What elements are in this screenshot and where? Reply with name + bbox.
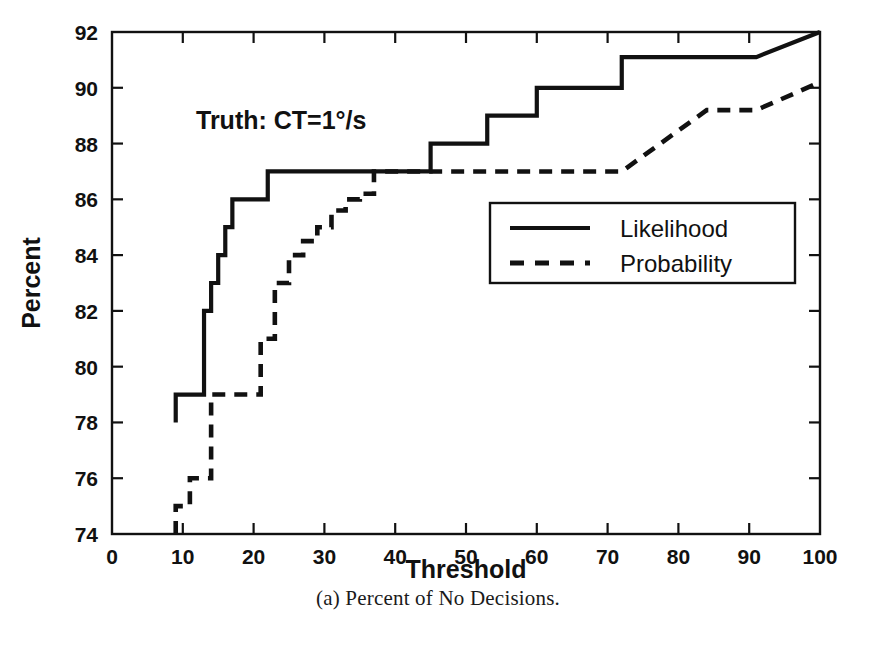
x-tick-label: 60 bbox=[525, 545, 548, 568]
chart-canvas: 0102030405060708090100 74767880828486889… bbox=[0, 0, 876, 647]
y-tick-label: 92 bbox=[75, 21, 98, 44]
x-tick-label: 90 bbox=[738, 545, 761, 568]
x-tick-label: 70 bbox=[596, 545, 619, 568]
x-tick-label: 40 bbox=[384, 545, 407, 568]
legend-label-probability: Probability bbox=[620, 250, 732, 277]
x-axis-title: Threshold bbox=[406, 555, 527, 583]
annotation-truth: Truth: CT=1°/s bbox=[196, 106, 366, 134]
y-tick-label: 76 bbox=[75, 467, 98, 490]
y-tick-label: 86 bbox=[75, 188, 98, 211]
y-tick-label: 74 bbox=[75, 523, 99, 546]
y-tick-label: 82 bbox=[75, 300, 98, 323]
legend[interactable]: Likelihood Probability bbox=[490, 203, 795, 283]
x-tick-label: 100 bbox=[802, 545, 837, 568]
y-tick-label: 84 bbox=[75, 244, 99, 267]
figure-container: 0102030405060708090100 74767880828486889… bbox=[0, 0, 876, 647]
y-axis-title: Percent bbox=[17, 236, 45, 328]
y-tick-label: 80 bbox=[75, 356, 98, 379]
y-axis-tick-labels: 74767880828486889092 bbox=[75, 21, 99, 546]
figure-caption: (a) Percent of No Decisions. bbox=[0, 586, 876, 611]
x-tick-label: 80 bbox=[667, 545, 690, 568]
y-tick-label: 78 bbox=[75, 411, 99, 434]
legend-label-likelihood: Likelihood bbox=[620, 215, 728, 242]
x-tick-label: 0 bbox=[106, 545, 118, 568]
y-tick-label: 88 bbox=[75, 133, 99, 156]
y-tick-label: 90 bbox=[75, 77, 98, 100]
series-line-probability bbox=[176, 82, 820, 534]
x-tick-label: 20 bbox=[242, 545, 265, 568]
x-tick-label: 30 bbox=[313, 545, 336, 568]
x-tick-label: 10 bbox=[171, 545, 194, 568]
